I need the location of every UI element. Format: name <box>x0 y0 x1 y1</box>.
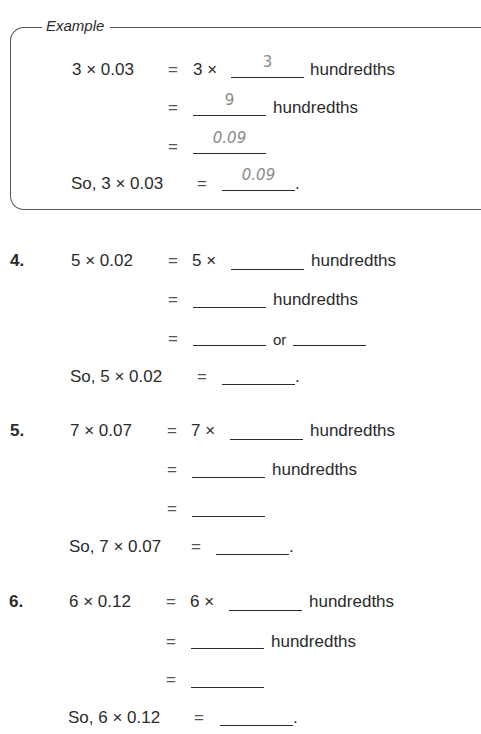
example-answer-blank-1: 3 <box>231 57 304 78</box>
example-answer-blank-2: 9 <box>193 95 266 116</box>
problem-multiplier: 6 × <box>190 592 214 612</box>
period: . <box>295 174 300 194</box>
example-answer-blank-3: 0.09 <box>193 133 266 154</box>
unit-label: hundredths <box>273 290 358 310</box>
equals-sign: = <box>168 251 178 271</box>
problem-conclusion: So, 7 × 0.07 <box>69 537 161 557</box>
handwritten-answer: 9 <box>193 91 266 109</box>
period: . <box>289 537 294 557</box>
equals-sign: = <box>167 421 177 441</box>
equals-sign: = <box>168 60 178 80</box>
equals-sign: = <box>168 290 178 310</box>
answer-blank[interactable] <box>229 590 302 611</box>
problem-number: 4. <box>10 251 24 271</box>
problem-number: 6. <box>9 592 23 612</box>
equals-sign: = <box>197 174 207 194</box>
or-label: or <box>273 330 286 350</box>
equals-sign: = <box>167 499 177 519</box>
unit-label: hundredths <box>271 632 356 652</box>
answer-blank[interactable] <box>193 325 266 346</box>
equals-sign: = <box>166 670 176 690</box>
problem-conclusion: So, 6 × 0.12 <box>68 708 160 728</box>
handwritten-answer: 0.09 <box>193 129 266 147</box>
answer-blank[interactable] <box>192 496 265 517</box>
problem-lhs: 7 × 0.07 <box>70 421 132 441</box>
example-conclusion: So, 3 × 0.03 <box>71 174 163 194</box>
answer-blank[interactable] <box>192 457 265 478</box>
equals-sign: = <box>166 632 176 652</box>
answer-blank[interactable] <box>222 364 295 385</box>
equals-sign: = <box>194 708 204 728</box>
unit-label: hundredths <box>272 460 357 480</box>
problem-conclusion: So, 5 × 0.02 <box>70 367 162 387</box>
unit-label: hundredths <box>310 421 395 441</box>
period: . <box>295 367 300 387</box>
problem-number: 5. <box>10 421 24 441</box>
answer-blank[interactable] <box>193 287 266 308</box>
handwritten-answer: 0.09 <box>222 166 295 184</box>
equals-sign: = <box>168 98 178 118</box>
period: . <box>293 708 298 728</box>
equals-sign: = <box>191 537 201 557</box>
example-multiplier: 3 × <box>193 60 217 80</box>
problem-multiplier: 5 × <box>192 251 216 271</box>
answer-blank[interactable] <box>230 419 303 440</box>
handwritten-answer: 3 <box>231 53 304 71</box>
answer-blank[interactable] <box>220 705 293 726</box>
answer-blank[interactable] <box>216 534 289 555</box>
problem-lhs: 6 × 0.12 <box>69 592 131 612</box>
unit-label: hundredths <box>273 98 358 118</box>
problem-multiplier: 7 × <box>191 421 215 441</box>
equals-sign: = <box>167 460 177 480</box>
equals-sign: = <box>197 367 207 387</box>
unit-label: hundredths <box>310 60 395 80</box>
equals-sign: = <box>168 329 178 349</box>
unit-label: hundredths <box>309 592 394 612</box>
example-title: Example <box>42 16 110 36</box>
answer-blank[interactable] <box>231 249 304 270</box>
example-lhs: 3 × 0.03 <box>72 60 134 80</box>
answer-blank[interactable] <box>293 325 366 346</box>
unit-label: hundredths <box>311 251 396 271</box>
example-answer-blank-4: 0.09 <box>222 170 295 191</box>
equals-sign: = <box>166 592 176 612</box>
answer-blank[interactable] <box>191 628 264 649</box>
equals-sign: = <box>168 137 178 157</box>
answer-blank[interactable] <box>191 667 264 688</box>
problem-lhs: 5 × 0.02 <box>71 251 133 271</box>
